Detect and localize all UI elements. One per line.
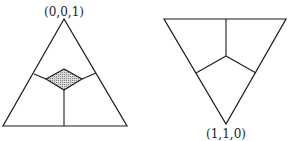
shaded-diamond [46,69,82,90]
vertex-label-bottom: (1,1,0) [206,127,246,141]
triangle-outline [164,19,286,124]
vertex-label-top: (0,0,1) [44,5,84,19]
diagram-canvas: (0,0,1) (1,1,0) [0,0,288,141]
edge-right [226,56,256,73]
edge-left [196,56,226,73]
inverted-triangle: (1,1,0) [164,19,286,141]
edge-right [82,73,96,79]
edge-left [34,74,46,79]
upright-triangle: (0,0,1) [3,5,127,126]
